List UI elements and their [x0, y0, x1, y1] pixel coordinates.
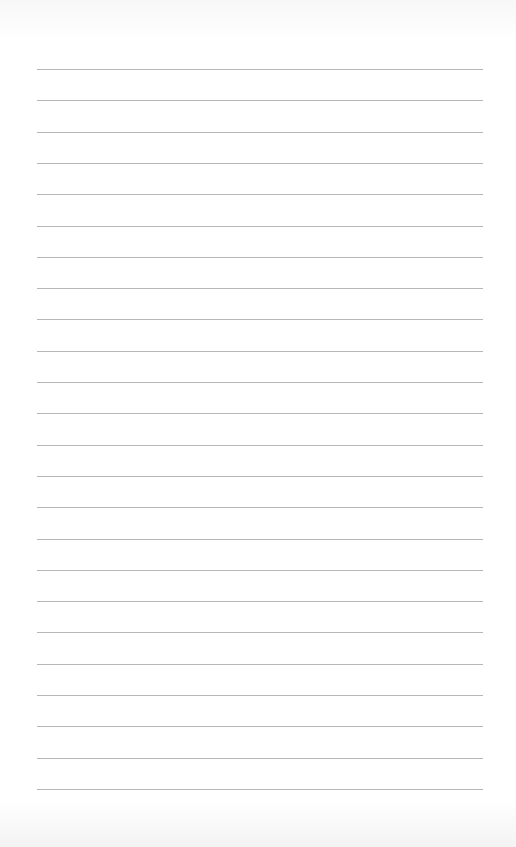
- ruled-line: [37, 132, 483, 133]
- ruled-line: [37, 601, 483, 602]
- ruled-line: [37, 632, 483, 633]
- ruled-line: [37, 570, 483, 571]
- ruled-line: [37, 445, 483, 446]
- ruled-line: [37, 476, 483, 477]
- ruled-line: [37, 163, 483, 164]
- ruled-line: [37, 257, 483, 258]
- lined-paper-page: [0, 0, 516, 847]
- ruled-line: [37, 413, 483, 414]
- ruled-line: [37, 351, 483, 352]
- ruled-line: [37, 100, 483, 101]
- ruled-line: [37, 194, 483, 195]
- ruled-line: [37, 695, 483, 696]
- ruled-line: [37, 539, 483, 540]
- ruled-line: [37, 288, 483, 289]
- ruled-line: [37, 726, 483, 727]
- ruled-line: [37, 758, 483, 759]
- ruled-line: [37, 789, 483, 790]
- ruled-line: [37, 382, 483, 383]
- ruled-line: [37, 69, 483, 70]
- ruled-line: [37, 226, 483, 227]
- ruled-line: [37, 507, 483, 508]
- ruled-line: [37, 664, 483, 665]
- ruled-line: [37, 319, 483, 320]
